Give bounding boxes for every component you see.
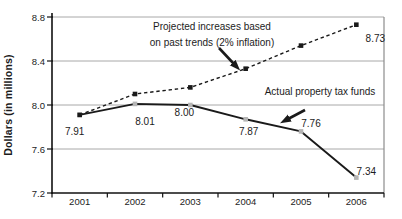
- y-tick-label: 8.0: [32, 100, 45, 111]
- x-tick-label: 2003: [180, 196, 201, 207]
- annotation-projected-line1: Projected increases based: [153, 21, 271, 32]
- annotation-actual: Actual property tax funds: [265, 86, 376, 97]
- chart-figure: 7.27.68.08.48.82001200220032004200520068…: [0, 0, 402, 219]
- y-tick-label: 8.4: [32, 56, 45, 67]
- point-label-actual-2004: 7.87: [239, 126, 259, 137]
- data-point-actual-2004: [243, 117, 248, 122]
- x-tick-label: 2001: [69, 196, 90, 207]
- y-tick-label: 7.6: [32, 144, 45, 155]
- point-label-projected-2006: 8.73: [366, 33, 386, 44]
- data-point-projected-2006: [354, 22, 359, 27]
- chart-canvas: 7.27.68.08.48.82001200220032004200520068…: [0, 0, 402, 219]
- data-point-projected-2001: [77, 113, 82, 118]
- data-point-projected-2004: [243, 66, 248, 71]
- annotation-arrow-projected: [219, 48, 234, 64]
- y-tick-label: 8.8: [32, 12, 45, 23]
- series-line-actual: [80, 104, 357, 178]
- x-tick-label: 2006: [346, 196, 367, 207]
- point-label-actual-2005: 7.76: [301, 118, 321, 129]
- y-tick-label: 7.2: [32, 188, 45, 199]
- data-point-projected-2003: [188, 85, 193, 90]
- x-tick-label: 2005: [290, 196, 311, 207]
- data-point-actual-2002: [133, 102, 138, 107]
- data-point-projected-2002: [133, 92, 138, 97]
- point-label-actual-2001: 7.91: [65, 126, 85, 137]
- x-tick-label: 2004: [235, 196, 256, 207]
- data-point-actual-2005: [299, 129, 304, 134]
- point-label-actual-2002: 8.01: [135, 116, 155, 127]
- point-label-actual-2006: 7.34: [357, 166, 377, 177]
- arrow-layer: [219, 48, 305, 119]
- x-tick-label: 2002: [124, 196, 145, 207]
- point-label-actual-2003: 8.00: [175, 107, 195, 118]
- annotation-projected-line2: on past trends (2% inflation): [150, 37, 275, 48]
- data-point-projected-2005: [299, 43, 304, 48]
- y-axis-title: Dollars (in millions): [2, 54, 14, 156]
